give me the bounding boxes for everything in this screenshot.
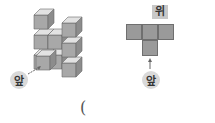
grid-cell (142, 24, 158, 40)
answer-paren: ( (80, 98, 86, 117)
grid-cell (126, 24, 142, 40)
front-arrow-right-icon (147, 58, 153, 70)
front-label-right: 앞 (142, 71, 160, 89)
grid-cell (142, 40, 158, 56)
front-label-left: 앞 (10, 71, 28, 89)
grid-cell (158, 24, 174, 40)
front-arrow-left-icon (27, 64, 43, 76)
top-view-label: 위 (152, 5, 168, 19)
